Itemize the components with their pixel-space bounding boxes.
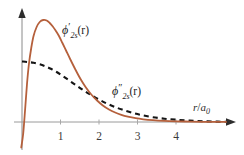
data-curves-group — [21, 20, 226, 148]
phi-prime-subscript: 2s — [70, 31, 77, 40]
phi-prime-2s-curve — [21, 20, 226, 148]
svg-text:r/a0: r/a0 — [193, 101, 210, 116]
x-tick-label-2: 2 — [96, 130, 102, 142]
annotation-x-axis-name: r/a0 — [193, 101, 210, 116]
x-tick-label-3: 3 — [135, 130, 141, 142]
y-axis-arrow-icon — [18, 8, 25, 18]
x-tick-labels-group: 1 2 3 4 — [58, 130, 180, 142]
annotation-phi-prime-2s: ϕ′2s(r) — [62, 21, 89, 40]
axes-group — [14, 8, 236, 150]
plot-canvas: 1 2 3 4 ϕ′2s(r) ϕ″2s(r) r/a0 — [0, 0, 244, 155]
x-tick-label-4: 4 — [173, 130, 179, 142]
annotation-phi-double-prime-2s: ϕ″2s(r) — [112, 82, 141, 101]
x-axis-name-subscript-zero: 0 — [206, 107, 210, 116]
x-axis-arrow-icon — [226, 118, 236, 125]
svg-text:ϕ″2s(r): ϕ″2s(r) — [112, 82, 141, 101]
svg-text:ϕ′2s(r): ϕ′2s(r) — [62, 21, 89, 40]
phi-prime-argument: (r) — [78, 24, 90, 37]
x-tick-label-1: 1 — [58, 130, 64, 142]
phi-double-prime-argument: (r) — [130, 85, 142, 98]
phi-double-prime-subscript: 2s — [122, 92, 129, 101]
orbital-derivative-plot-figure: 1 2 3 4 ϕ′2s(r) ϕ″2s(r) r/a0 — [0, 0, 244, 155]
